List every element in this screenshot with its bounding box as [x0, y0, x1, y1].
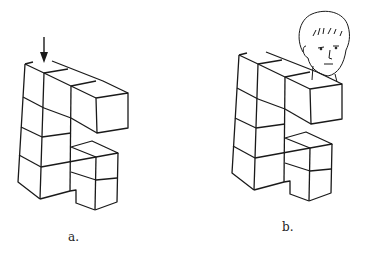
- figure-a-blocks: [18, 37, 128, 210]
- arrow-down-icon: [40, 37, 48, 63]
- figure-b-blocks: [232, 52, 342, 201]
- diagram-canvas: [0, 0, 366, 253]
- figure-label-b: b.: [282, 220, 294, 234]
- person-head-icon: [299, 11, 349, 82]
- figure-label-a: a.: [68, 230, 79, 244]
